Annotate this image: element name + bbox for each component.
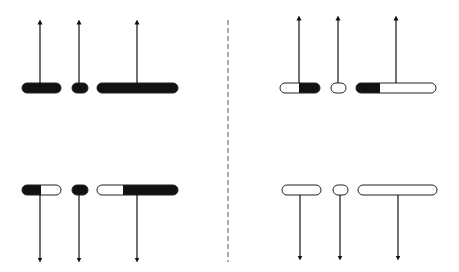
- filled-segment: [97, 82, 178, 94]
- panel-top-right: [280, 18, 436, 94]
- filled-segment: [123, 184, 178, 196]
- segment-bar: [22, 22, 61, 94]
- segment-bar: [333, 185, 348, 258]
- panel-bottom-right: [282, 185, 437, 258]
- diagram-canvas: [0, 0, 459, 272]
- panel-top-left: [22, 22, 178, 94]
- segment-bar: [282, 185, 321, 258]
- segment-bar: [97, 184, 178, 260]
- segment-bar: [356, 18, 436, 94]
- segment-bar: [280, 18, 320, 94]
- filled-segment: [22, 82, 61, 94]
- panel-bottom-left: [22, 184, 178, 260]
- segment-bar: [97, 22, 178, 94]
- panels-group: [22, 18, 437, 260]
- filled-segment: [356, 82, 380, 94]
- segment-bar: [72, 184, 88, 260]
- segment-bar: [72, 22, 88, 94]
- segment-bar: [358, 185, 437, 258]
- segment-bar: [22, 184, 61, 260]
- segment-bar: [331, 18, 346, 93]
